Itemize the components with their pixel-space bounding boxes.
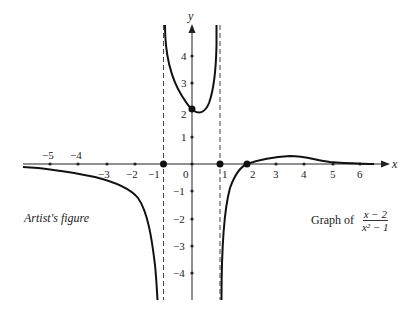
y-tick-label: −1 — [173, 185, 185, 197]
y-tick-label: 1 — [181, 131, 187, 143]
x-tick-label: 5 — [330, 168, 336, 180]
x-tick-label: 6 — [357, 168, 363, 180]
y-tick-label: 4 — [181, 50, 187, 62]
x-tick-label: −4 — [70, 149, 82, 161]
x-tick-label: 2 — [250, 168, 256, 180]
point-asymptote-left-crossing — [160, 161, 167, 168]
function-fraction: x − 2 x² − 1 — [362, 208, 389, 233]
y-tick-label: 2 — [181, 108, 187, 120]
x-axis-label: x — [391, 157, 398, 171]
y-tick-label: −2 — [173, 213, 185, 225]
x-tick-label: −5 — [42, 149, 54, 161]
y-tick-label: −3 — [173, 240, 185, 252]
point-x-intercept — [244, 161, 251, 168]
y-tick-label: −4 — [173, 267, 185, 279]
x-tick-label: 1 — [222, 168, 228, 180]
curve-left-branch — [23, 167, 158, 300]
graph-of-label: Graph of — [311, 213, 354, 228]
x-tick-label: −1 — [148, 168, 160, 180]
curve-middle-branch — [165, 25, 217, 112]
x-tick-label: 0 — [183, 168, 189, 180]
point-asymptote-right-crossing — [217, 161, 224, 168]
y-axis-arrow-icon — [189, 24, 196, 33]
artist-figure-caption: Artist's figure — [24, 211, 89, 226]
function-graph: x y −5 −4 −3 −2 −1 0 1 2 3 4 5 6 4 3 2 1… — [0, 0, 417, 318]
x-tick-label: 3 — [273, 168, 279, 180]
point-y-intercept — [189, 106, 196, 113]
fraction-numerator: x − 2 — [363, 208, 388, 221]
y-tick-label: 3 — [181, 77, 187, 89]
graph-of-caption: Graph of x − 2 x² − 1 — [311, 208, 389, 233]
y-axis-label: y — [187, 9, 194, 23]
x-tick-label: 4 — [301, 168, 307, 180]
x-tick-label: −2 — [126, 168, 138, 180]
x-axis-arrow-icon — [381, 161, 390, 168]
fraction-denominator: x² − 1 — [362, 221, 389, 233]
